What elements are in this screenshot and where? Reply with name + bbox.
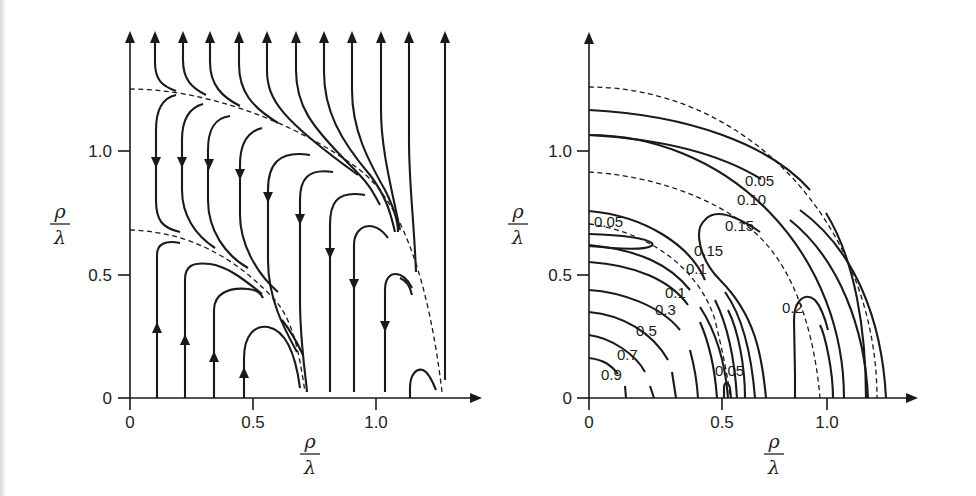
- svg-text:0.5: 0.5: [636, 322, 657, 339]
- x-axis-arrow-icon: [906, 393, 918, 403]
- y-axis-arrow-icon: [584, 32, 594, 44]
- y-tick-0: 0: [103, 389, 112, 408]
- streamline-plot: 0 0.5 1.0 0 0.5 1.0 ρ λ ρ λ: [0, 0, 490, 496]
- svg-text:0.05: 0.05: [745, 172, 774, 189]
- contour-0.10: [589, 135, 844, 398]
- svg-text:0.9: 0.9: [601, 366, 622, 383]
- svg-text:ρ: ρ: [767, 430, 780, 452]
- svg-text:ρ: ρ: [303, 430, 316, 452]
- svg-text:0.1: 0.1: [686, 260, 707, 277]
- outer-separatrix: [130, 89, 442, 392]
- x-tick-10: 1.0: [364, 413, 388, 432]
- y-tick-05: 0.5: [548, 266, 572, 285]
- svg-text:0.7: 0.7: [617, 346, 638, 363]
- y-tick-05: 0.5: [88, 266, 112, 285]
- x-tick-10: 1.0: [815, 413, 839, 432]
- svg-text:0.3: 0.3: [655, 301, 676, 318]
- svg-text:ρ: ρ: [53, 200, 66, 222]
- y-axis-label-right: ρ λ: [508, 200, 528, 248]
- inner-dashed-arc: [589, 224, 730, 398]
- svg-text:0.10: 0.10: [737, 191, 766, 208]
- contour-labels: 0.9 0.7 0.5 0.3 0.1 0.1 0.15 0.05 0.15 0…: [594, 172, 803, 383]
- x-axis-label: ρ λ: [300, 430, 320, 478]
- x-axis-label-right: ρ λ: [764, 430, 784, 478]
- svg-text:0.05: 0.05: [594, 213, 623, 230]
- y-tick-0: 0: [563, 389, 572, 408]
- lower-streamlines: [157, 242, 436, 398]
- y-axis-arrow-icon: [125, 31, 135, 43]
- y-tick-10: 1.0: [88, 142, 112, 161]
- svg-text:λ: λ: [53, 226, 66, 248]
- svg-text:0.2: 0.2: [782, 299, 803, 316]
- svg-text:0.15: 0.15: [694, 242, 723, 259]
- svg-text:0.15: 0.15: [725, 217, 754, 234]
- x-tick-05: 0.5: [241, 413, 265, 432]
- svg-text:0.1: 0.1: [665, 284, 686, 301]
- svg-text:ρ: ρ: [511, 200, 524, 222]
- y-tick-10: 1.0: [548, 142, 572, 161]
- x-axis-arrow-icon: [470, 393, 482, 403]
- svg-text:0.05: 0.05: [715, 362, 744, 379]
- up-arrowheads: [152, 322, 249, 378]
- svg-text:λ: λ: [303, 456, 316, 478]
- x-tick-0: 0: [125, 413, 134, 432]
- contour-lines: [589, 110, 886, 398]
- downward-streamlines: [156, 95, 412, 392]
- x-tick-05: 0.5: [710, 413, 734, 432]
- middle-dashed-arc: [589, 172, 820, 398]
- x-tick-0: 0: [584, 413, 593, 432]
- svg-text:λ: λ: [511, 226, 524, 248]
- svg-text:λ: λ: [767, 456, 780, 478]
- outer-dashed-arc: [589, 87, 877, 398]
- y-axis-label: ρ λ: [50, 200, 70, 248]
